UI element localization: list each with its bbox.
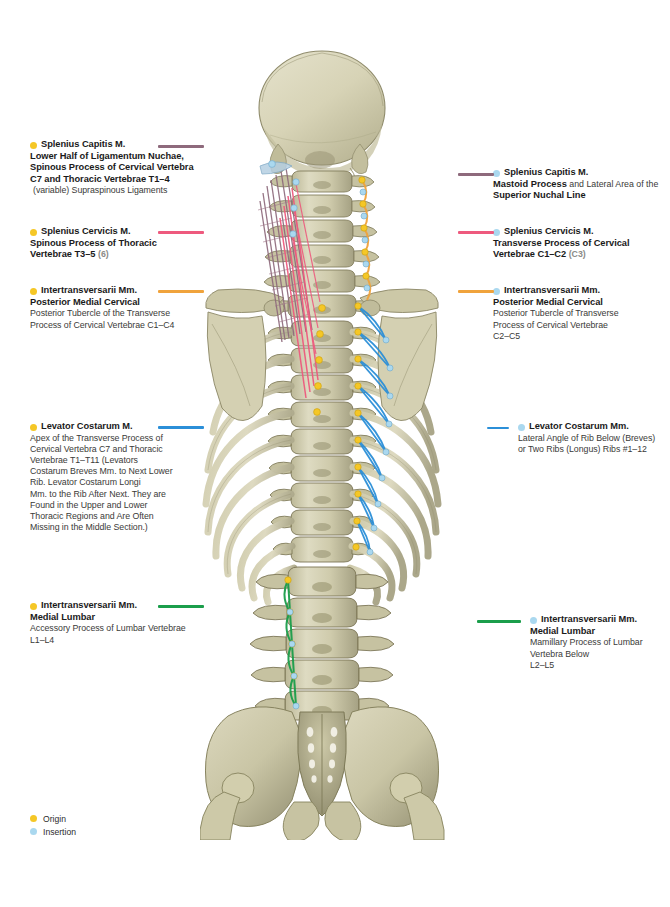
label-line: Vertebrae T3–5 (6) [30, 249, 200, 261]
label-line: Posterior Tubercle of Transverse [493, 308, 668, 319]
connector-intertransversarii-cervical-insertion [458, 290, 494, 293]
label-levator-costarum-insertion: Levator Costarum Mm. Lateral Angle of Ri… [518, 421, 670, 455]
label-line-text: Vertebrae T3–5 [30, 249, 95, 259]
origin-dot [30, 288, 37, 295]
label-subtitle: Superior Nuchal Line [493, 190, 668, 202]
label-line-text: Vertebrae C1–C2 [493, 249, 566, 259]
label-levator-costarum-origin: Levator Costarum M. Apex of the Transver… [30, 421, 208, 533]
label-plain: and Lateral Area of the [567, 179, 658, 189]
label-line: Costarum Breves Mm. to Next Lower [30, 466, 208, 477]
label-subtitle: Posterior Medial Cervical [30, 297, 205, 309]
right-scapula [360, 289, 438, 421]
lumbar-spine [250, 567, 394, 720]
label-line: Missing in the Middle Section.) [30, 522, 208, 533]
label-line: Apex of the Transverse Process of [30, 433, 208, 444]
label-line: Mamillary Process of Lumbar [530, 637, 670, 648]
label-title: Intertransversarii Mm. [504, 285, 600, 297]
label-subtitle: Medial Lumbar [30, 612, 210, 624]
connector-levator-costarum-insertion [487, 427, 509, 429]
label-line: Vertebra Below [530, 649, 670, 660]
humerus-bones [254, 340, 279, 486]
connector-splenius-capitis-origin [158, 145, 204, 148]
insertion-dot [493, 288, 500, 295]
label-title: Splenius Capitis M. [504, 167, 588, 179]
label-line: Lateral Angle of Rib Below (Breves) [518, 433, 670, 444]
label-title: Intertransversarii Mm. [41, 285, 137, 297]
insertion-dot [493, 170, 500, 177]
connector-intertransversarii-lumbar-origin [158, 605, 204, 608]
pelvis [200, 707, 444, 840]
label-title: Splenius Cervicis M. [504, 226, 593, 238]
legend-label: Insertion [43, 827, 76, 837]
label-line: C7 and Thoracic Vertebrae T1–4 [30, 174, 200, 186]
label-intertransversarii-cervical-insertion: Intertransversarii Mm. Posterior Medial … [493, 285, 668, 342]
skeleton-svg [200, 40, 490, 840]
illustration-page: Splenius Capitis M. Lower Half of Ligame… [0, 0, 670, 907]
label-subtitle: Posterior Medial Cervical [493, 297, 668, 309]
legend-item-insertion: Insertion [30, 825, 76, 838]
legend-label: Origin [43, 814, 66, 824]
label-line: Lower Half of Ligamentum Nuchae, [30, 151, 200, 163]
label-title: Intertransversarii Mm. [41, 600, 137, 612]
connector-intertransversarii-cervical-origin [158, 290, 204, 293]
label-suffix: (6) [98, 249, 109, 259]
label-splenius-cervicis-insertion: Splenius Cervicis M. Transverse Process … [493, 226, 668, 261]
label-line: L2–L5 [530, 660, 670, 671]
legend-item-origin: Origin [30, 812, 76, 825]
origin-dot [30, 142, 37, 149]
label-line: Vertebrae C1–C2 (C3) [493, 249, 668, 261]
insertion-dot [530, 617, 537, 624]
label-note: (variable) Supraspinous Ligaments [30, 185, 200, 196]
label-title: Levator Costarum M. [41, 421, 133, 433]
label-line: Process of Cervical Vertebrae C1–C4 [30, 320, 205, 331]
label-line: Transverse Process of Cervical [493, 238, 668, 250]
label-line: Cervical Vertebra C7 and Thoracic [30, 444, 208, 455]
insertion-dot [30, 828, 37, 835]
origin-dot [30, 603, 37, 610]
label-title: Splenius Cervicis M. [41, 226, 130, 238]
label-line: or Two Ribs (Longus) Ribs #1–12 [518, 444, 670, 455]
connector-levator-costarum-origin [158, 426, 204, 429]
skeleton-illustration [200, 40, 490, 840]
label-line: Spinous Process of Cervical Vertebra [30, 162, 200, 174]
label-title: Levator Costarum Mm. [529, 421, 629, 433]
label-suffix: (C3) [569, 249, 586, 259]
label-intertransversarii-lumbar-insertion: Intertransversarii Mm. Medial Lumbar Mam… [530, 614, 670, 671]
label-line: Mastoid Process and Lateral Area of the [493, 179, 668, 190]
connector-splenius-capitis-insertion [458, 173, 494, 176]
label-line: Mm. to the Rib After Next. They are [30, 489, 208, 500]
legend: Origin Insertion [30, 812, 76, 838]
label-line: C2–C5 [493, 331, 668, 342]
label-line: Rib. Levator Costarum Longi [30, 477, 208, 488]
label-splenius-capitis-insertion: Splenius Capitis M. Mastoid Process and … [493, 167, 668, 202]
label-line: Process of Cervical Vertebrae [493, 320, 668, 331]
label-line: Thoracic Regions and Are Often [30, 511, 208, 522]
insertion-dot [518, 424, 525, 431]
label-line: Accessory Process of Lumbar Vertebrae [30, 623, 210, 634]
label-line: Spinous Process of Thoracic [30, 238, 200, 250]
label-title: Splenius Capitis M. [41, 139, 125, 151]
insertion-dot [493, 229, 500, 236]
label-line: L1–L4 [30, 635, 210, 646]
connector-splenius-cervicis-origin [158, 231, 204, 234]
label-line: Vertebrae T1–T11 (Levators [30, 455, 208, 466]
label-title: Intertransversarii Mm. [541, 614, 637, 626]
label-line: Posterior Tubercle of the Transverse [30, 308, 205, 319]
origin-dot [30, 815, 37, 822]
label-subtitle: Medial Lumbar [530, 626, 670, 638]
label-line: Found in the Upper and Lower [30, 500, 208, 511]
label-emphasis: Mastoid Process [493, 179, 567, 189]
connector-intertransversarii-lumbar-insertion [477, 620, 521, 623]
origin-dot [30, 424, 37, 431]
connector-splenius-cervicis-insertion [458, 231, 494, 234]
origin-dot [30, 229, 37, 236]
